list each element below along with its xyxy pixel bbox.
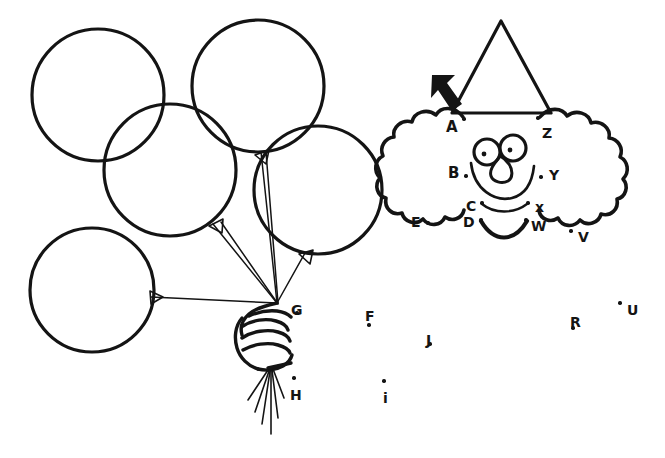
balloon-middle [104, 104, 236, 236]
dot-label-U: U [627, 303, 638, 317]
dot-label-Y: Y [549, 168, 559, 182]
clown-face [471, 135, 534, 199]
dot-point-A [462, 117, 465, 120]
dot-point-R [571, 326, 574, 329]
dot-point-H [292, 376, 295, 379]
dot-label-V: V [578, 230, 589, 244]
fist-finger-3 [243, 344, 290, 353]
line-art-illustration [0, 0, 665, 458]
dot-label-F: F [365, 309, 375, 323]
collar-arc-thin [482, 204, 527, 212]
start-here-arrow [431, 75, 462, 111]
dot-point-E [426, 221, 429, 224]
dot-label-W: W [531, 219, 546, 233]
string-top-right-a [261, 152, 277, 303]
dot-point-J [428, 342, 431, 345]
collar-arcs [481, 204, 527, 238]
loose-string-ends [248, 369, 284, 434]
dot-point-x [526, 201, 529, 204]
dot-label-A: A [446, 120, 458, 135]
balloon-top-right [192, 20, 324, 152]
balloon-bottom-left [30, 228, 154, 352]
string-middle-a [213, 224, 277, 303]
dot-label-D: D [463, 215, 475, 229]
dot-point-i [382, 379, 385, 382]
hat-triangle [452, 21, 551, 113]
balloon-top-left [32, 29, 164, 161]
dot-point-C [480, 201, 483, 204]
dot-point-U [618, 301, 621, 304]
dot-point-W [524, 218, 527, 221]
dot-point-V [569, 229, 572, 232]
string-bottom-left [151, 297, 277, 303]
dot-point-G [295, 311, 298, 314]
drawing-canvas: ABCDEFGHiJRUVWxYZ [0, 0, 665, 458]
dot-label-H: H [290, 388, 302, 402]
smile [471, 163, 534, 199]
dot-label-Z: Z [542, 126, 552, 140]
dot-label-G: G [291, 303, 303, 317]
string-right [277, 253, 305, 303]
pupil-right [508, 148, 513, 153]
balloon-group [30, 20, 382, 352]
fist-finger-2 [242, 331, 290, 341]
dot-point-Z [536, 116, 539, 119]
dot-label-B: B [448, 166, 459, 181]
balloon-strings [151, 152, 305, 304]
dot-point-Y [539, 175, 542, 178]
dot-point-F [367, 323, 370, 326]
dot-label-E: E [411, 215, 421, 229]
dot-point-D [479, 218, 482, 221]
collar-arc-thick [481, 221, 527, 238]
fist-finger-1 [243, 320, 288, 330]
dot-label-C: C [466, 199, 476, 213]
dot-point-B [464, 174, 467, 177]
pupil-left [482, 152, 487, 157]
party-hat [452, 21, 551, 113]
dot-label-x: x [535, 200, 544, 214]
fist-holding-strings [235, 303, 292, 370]
dot-label-i: i [383, 391, 388, 405]
